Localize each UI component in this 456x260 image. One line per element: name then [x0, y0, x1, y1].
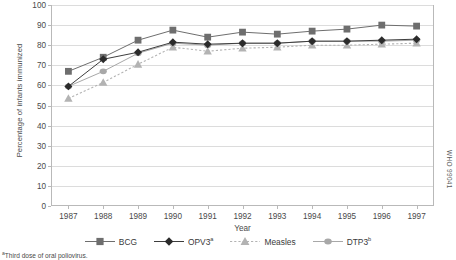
- legend-label: BCG: [119, 237, 137, 247]
- x-tick-label: 1996: [373, 212, 391, 221]
- x-tick-mark: [312, 206, 313, 209]
- data-point: [135, 37, 142, 44]
- legend-swatch-circle-icon: [313, 236, 343, 247]
- series-layer: [51, 5, 434, 206]
- who-watermark: WHO 99041: [446, 150, 453, 189]
- legend-item-opv3[interactable]: OPV3a: [154, 236, 213, 247]
- x-tick-mark: [417, 206, 418, 209]
- x-tick-label: 1989: [129, 212, 147, 221]
- y-tick-label: 0: [41, 202, 46, 211]
- data-point: [378, 22, 385, 29]
- y-tick-label: 30: [37, 141, 46, 150]
- data-point: [309, 28, 316, 35]
- y-tick-label: 100: [32, 1, 46, 10]
- x-tick-label: 1991: [199, 212, 217, 221]
- y-tick-label: 80: [37, 41, 46, 50]
- legend-label: DTP3b: [347, 236, 372, 247]
- y-tick-label: 50: [37, 101, 46, 110]
- footnote-text: Third dose of oral poliovirus.: [5, 252, 88, 259]
- data-point: [204, 34, 211, 41]
- y-tick-label: 60: [37, 81, 46, 90]
- legend-swatch-diamond-icon: [154, 236, 184, 247]
- y-tick-label: 40: [37, 121, 46, 130]
- plot-area: 0102030405060708090100 19871988198919901…: [51, 5, 434, 206]
- legend-swatch-triangle-icon: [230, 236, 260, 247]
- y-tick-label: 20: [37, 161, 46, 170]
- data-point: [413, 23, 420, 30]
- data-point: [64, 94, 72, 102]
- data-point: [344, 26, 351, 33]
- legend-superscript: a: [210, 236, 213, 242]
- legend-superscript: b: [368, 236, 371, 242]
- x-tick-mark: [277, 206, 278, 209]
- legend-item-bcg[interactable]: BCG: [85, 236, 137, 247]
- x-tick-mark: [103, 206, 104, 209]
- series-opv3: [64, 35, 420, 90]
- chart-legend: BCGOPV3aMeaslesDTP3b: [0, 236, 456, 247]
- data-point: [239, 29, 246, 36]
- series-measles: [64, 39, 421, 102]
- data-point: [100, 68, 107, 74]
- data-point: [134, 60, 142, 68]
- x-tick-mark: [347, 206, 348, 209]
- legend-item-dtp3[interactable]: DTP3b: [313, 236, 372, 247]
- y-tick-mark: [48, 206, 51, 207]
- data-point: [308, 37, 316, 45]
- x-tick-label: 1993: [268, 212, 286, 221]
- x-tick-label: 1997: [407, 212, 425, 221]
- legend-label: Measles: [264, 237, 295, 247]
- legend-swatch-square-icon: [85, 236, 115, 247]
- x-tick-mark: [68, 206, 69, 209]
- y-tick-label: 70: [37, 61, 46, 70]
- data-point: [99, 78, 107, 86]
- chart-footnote: aThird dose of oral poliovirus.: [2, 250, 88, 259]
- x-axis-title: Year: [51, 224, 434, 233]
- x-tick-mark: [138, 206, 139, 209]
- immunization-coverage-chart: Percentage of infants immunized 01020304…: [0, 0, 456, 260]
- x-tick-label: 1995: [338, 212, 356, 221]
- legend-item-measles[interactable]: Measles: [230, 236, 295, 247]
- x-tick-label: 1988: [94, 212, 112, 221]
- x-tick-label: 1992: [233, 212, 251, 221]
- data-point: [65, 68, 72, 75]
- x-tick-label: 1990: [164, 212, 182, 221]
- x-tick-mark: [173, 206, 174, 209]
- data-point: [343, 37, 351, 45]
- x-tick-mark: [382, 206, 383, 209]
- x-tick-label: 1994: [303, 212, 321, 221]
- data-point: [169, 27, 176, 34]
- x-tick-mark: [243, 206, 244, 209]
- x-tick-mark: [208, 206, 209, 209]
- x-tick-label: 1987: [59, 212, 77, 221]
- data-point: [239, 39, 247, 47]
- data-point: [273, 39, 281, 47]
- legend-label: OPV3a: [188, 236, 213, 247]
- y-tick-label: 90: [37, 21, 46, 30]
- y-tick-label: 10: [37, 181, 46, 190]
- y-axis-title: Percentage of infants immunized: [15, 21, 24, 181]
- data-point: [274, 31, 281, 38]
